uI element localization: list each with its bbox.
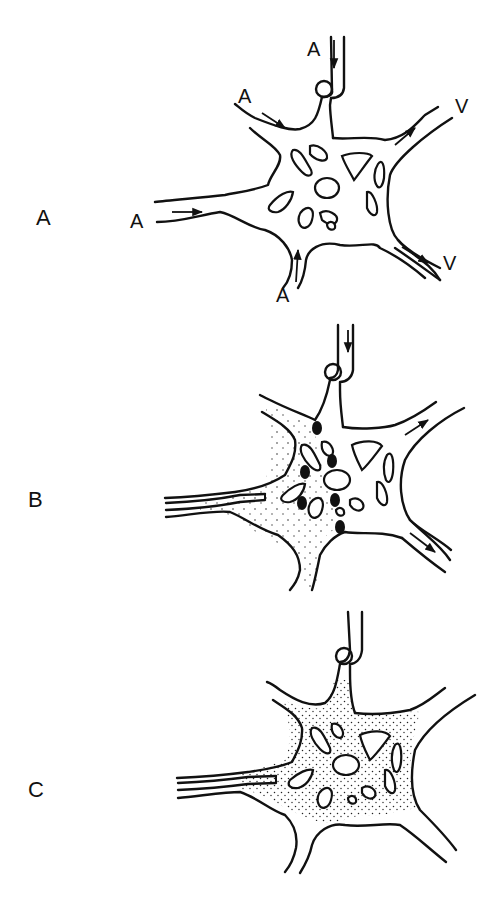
panel-c-network — [177, 612, 475, 873]
vascular-diagram: A A A A V V — [0, 0, 502, 900]
panel-a-network: A A A A V V — [130, 37, 469, 306]
vessel-label-upper-left-artery: A — [238, 85, 252, 107]
vessel-label-left-artery: A — [130, 210, 144, 232]
vessel-label-bottom-artery: A — [276, 284, 290, 306]
occlusion-dot — [335, 520, 345, 534]
occlusion-dot — [330, 493, 340, 507]
occlusion-dot — [297, 496, 307, 510]
occlusion-dot — [300, 465, 310, 479]
vessel-label-upper-right-vein: V — [455, 95, 469, 117]
occlusion-dot — [327, 454, 337, 468]
vessel-label-top-artery: A — [307, 38, 321, 60]
vessel-label-lower-right-vein: V — [443, 252, 457, 274]
panel-b-network — [165, 325, 464, 590]
occlusion-dot — [312, 421, 322, 435]
